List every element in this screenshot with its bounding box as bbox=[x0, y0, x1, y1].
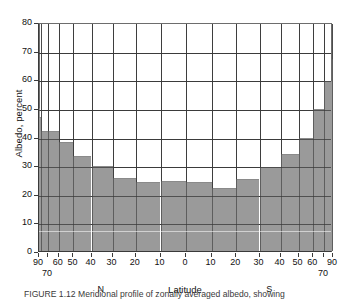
bar-8 bbox=[136, 182, 161, 251]
x-tick-label-30N: 30 bbox=[100, 257, 124, 267]
bar-2 bbox=[41, 131, 48, 251]
bar-9 bbox=[161, 181, 187, 251]
x-tick-label-20S: 20 bbox=[223, 257, 247, 267]
bar-12 bbox=[236, 179, 259, 251]
bar-6 bbox=[92, 166, 113, 251]
y-tick-label-0: 0 bbox=[6, 246, 32, 256]
y-tick-label-80: 80 bbox=[6, 17, 32, 27]
y-tick-label-60: 60 bbox=[6, 74, 32, 84]
bar-top-edge bbox=[136, 182, 161, 183]
bar-top-edge bbox=[260, 167, 281, 168]
bar-top-edge bbox=[41, 131, 48, 132]
x-tick-label-10N: 10 bbox=[148, 257, 172, 267]
bar-11 bbox=[212, 188, 237, 251]
y-tick-label-70: 70 bbox=[6, 46, 32, 56]
bar-top-edge bbox=[48, 131, 59, 132]
bar-top-edge bbox=[212, 188, 237, 189]
y-tick-label-20: 20 bbox=[6, 189, 32, 199]
bar-18 bbox=[332, 59, 333, 251]
bar-top-edge bbox=[324, 81, 332, 82]
plot-area bbox=[38, 23, 332, 252]
bar-10 bbox=[186, 182, 212, 251]
bar-top-edge bbox=[236, 179, 259, 180]
bar-top-edge bbox=[186, 182, 212, 183]
x-tick-label-20N: 20 bbox=[123, 257, 147, 267]
gridline-y-over-60 bbox=[39, 81, 331, 82]
x-tick-label-10S: 10 bbox=[199, 257, 223, 267]
bar-top-edge bbox=[299, 138, 314, 139]
bar-14 bbox=[281, 154, 299, 251]
y-tick-label-40: 40 bbox=[6, 132, 32, 142]
figure-caption: FIGURE 1.12 Meridional profile of zonall… bbox=[24, 289, 324, 299]
x-tick-label-0N: 0 bbox=[173, 257, 197, 267]
y-tick-label-30: 30 bbox=[6, 160, 32, 170]
gridline-y-over-40 bbox=[39, 139, 331, 140]
gridline-y-over-50 bbox=[39, 110, 331, 111]
bar-top-edge bbox=[161, 181, 187, 182]
gridline-y-over-70 bbox=[39, 53, 331, 54]
x-tick-label-90S: 90 bbox=[320, 257, 344, 267]
bar-top-edge bbox=[39, 117, 41, 118]
bar-5 bbox=[73, 156, 91, 251]
bar-4 bbox=[59, 142, 74, 251]
bar-top-edge bbox=[59, 142, 74, 143]
bar-15 bbox=[299, 138, 314, 251]
x-tick-label-70S: 70 bbox=[311, 268, 335, 278]
bar-16 bbox=[313, 109, 324, 251]
y-tick-label-10: 10 bbox=[6, 217, 32, 227]
bar-3 bbox=[48, 131, 59, 251]
bar-top-edge bbox=[113, 178, 136, 179]
y-tick-label-50: 50 bbox=[6, 103, 32, 113]
x-tick-label-70N: 70 bbox=[35, 268, 59, 278]
bar-top-edge bbox=[73, 156, 91, 157]
bar-top-edge bbox=[313, 109, 324, 110]
bar-series-albedo bbox=[39, 24, 331, 251]
bar-top-edge bbox=[92, 166, 113, 167]
bar-17 bbox=[324, 81, 332, 251]
bar-13 bbox=[260, 167, 281, 251]
bar-top-edge bbox=[281, 154, 299, 155]
bar-top-edge bbox=[39, 108, 40, 109]
bar-top-edge bbox=[332, 59, 333, 60]
bar-7 bbox=[113, 178, 136, 251]
